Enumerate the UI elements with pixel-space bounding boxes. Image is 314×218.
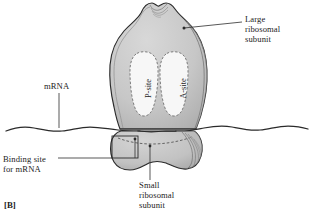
label-p-site: P-site [144,72,153,106]
leader-dot-binding-site [134,138,137,141]
label-binding-site-for-mrna: Binding site for mRNA [3,154,46,174]
figure-container: Large ribosomal subunit mRNA Binding sit… [0,0,314,218]
label-large-ribosomal-subunit: Large ribosomal subunit [245,14,280,45]
leader-dot-small-subunit [149,145,152,148]
label-mrna: mRNA [44,81,69,91]
label-small-ribosomal-subunit: Small ribosomal subunit [139,180,174,211]
large-ribosomal-subunit-shape [110,3,215,132]
leader-dot-large-subunit [183,27,186,30]
figure-panel-tag: [B] [4,200,16,210]
label-a-site: A-site [179,72,188,106]
small-ribosomal-subunit-shape [111,130,206,171]
